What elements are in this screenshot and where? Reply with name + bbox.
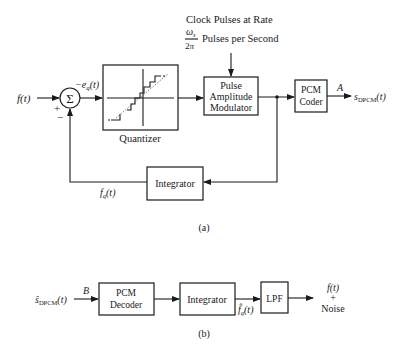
svg-text:Amplitude: Amplitude (210, 91, 253, 102)
minus-sign: − (57, 111, 63, 123)
clock-annotation: Clock Pulses at Rate ωs 2π Pulses per Se… (185, 14, 279, 76)
clock-line2: Pulses per Second (202, 33, 279, 44)
svg-text:+: + (330, 292, 336, 303)
svg-text:Integrator: Integrator (155, 178, 195, 189)
error-label: −eq(t) (75, 79, 100, 92)
sigma-icon: Σ (66, 91, 74, 106)
svg-text:LPF: LPF (266, 294, 282, 304)
input-label-s-hat-dpcm: ŝDPCM(t) (35, 294, 67, 306)
svg-text:Noise: Noise (321, 303, 345, 314)
dpcm-block-diagram: f(t) Σ + − −eq(t) Quantizer (0, 0, 408, 352)
clock-frac-num: ωs (186, 26, 196, 38)
pcm-coder-block: PCM Coder (295, 80, 327, 112)
output-label-s-dpcm: sDPCM(t) (354, 91, 386, 103)
summing-junction: Σ + − (54, 88, 80, 123)
svg-text:Decoder: Decoder (110, 300, 143, 310)
caption-a: (a) (198, 222, 209, 234)
quantizer-block: Quantizer (103, 65, 178, 144)
pam-block: Pulse Amplitude Modulator (204, 77, 258, 115)
transmitter-diagram: f(t) Σ + − −eq(t) Quantizer (17, 14, 386, 234)
input-label-f-t: f(t) (17, 92, 31, 105)
pcm-decoder-block: PCM Decoder (99, 283, 154, 315)
svg-text:Coder: Coder (299, 97, 323, 107)
receiver-diagram: ŝDPCM(t) B PCM Decoder Integrator f̂q(t)… (35, 282, 345, 340)
point-b-label: B (83, 285, 89, 296)
feedback-label-fq: fq(t) (100, 187, 116, 199)
svg-text:Modulator: Modulator (210, 102, 253, 113)
svg-text:PCM: PCM (116, 288, 137, 298)
integrator-block-a: Integrator (147, 167, 203, 200)
lpf-block: LPF (261, 282, 288, 313)
svg-text:PCM: PCM (301, 85, 322, 95)
mid-label-fq-hat: f̂q(t) (238, 303, 254, 316)
integrator-block-b: Integrator (180, 283, 235, 315)
receiver-output: f(t) + Noise (321, 282, 345, 314)
clock-line1: Clock Pulses at Rate (186, 14, 273, 25)
point-a-label: A (336, 82, 344, 93)
caption-b: (b) (198, 328, 210, 340)
quantizer-label: Quantizer (119, 133, 161, 144)
svg-text:Pulse: Pulse (220, 80, 242, 91)
clock-frac-den: 2π (185, 41, 195, 51)
svg-text:Integrator: Integrator (187, 294, 227, 305)
